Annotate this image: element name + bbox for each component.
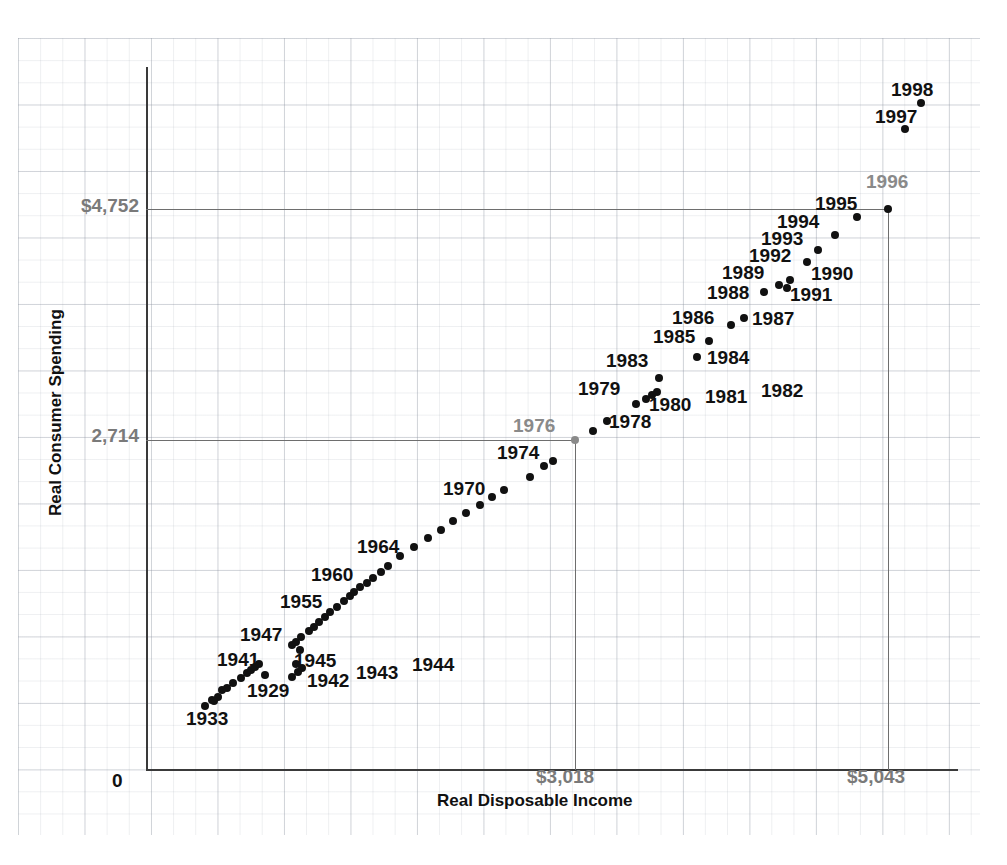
data-point-1983: [655, 374, 663, 382]
data-point-1974: [540, 462, 548, 470]
data-point-label-1995: 1995: [815, 194, 857, 213]
data-point-label-1933: 1933: [186, 709, 228, 728]
data-point-label-1942: 1942: [307, 671, 349, 690]
data-point-1967: [437, 526, 445, 534]
data-point-label-1997: 1997: [875, 107, 917, 126]
x-tick-label-3018: $3,018: [536, 766, 594, 788]
data-point-1985: [705, 337, 713, 345]
data-point-1989: [775, 281, 783, 289]
data-point-label-1979: 1979: [578, 379, 620, 398]
data-point-label-1985: 1985: [653, 327, 695, 346]
data-point-1963: [384, 562, 392, 570]
data-point-1933: [210, 697, 218, 705]
data-point-1992: [803, 258, 811, 266]
data-point-1962: [377, 568, 385, 576]
y-axis-line: [146, 67, 148, 770]
x-tick-label-5043: $5,043: [847, 766, 905, 788]
data-point-1995: [853, 213, 861, 221]
reference-line-y-4752: [146, 209, 889, 210]
data-point-1998: [917, 99, 925, 107]
data-point-1971: [488, 493, 496, 501]
data-point-label-1982: 1982: [761, 381, 803, 400]
data-point-label-1945: 1945: [294, 651, 336, 670]
chart-page: $4,752 2,714 0 $3,018 $5,043 Real Dispos…: [0, 0, 1007, 865]
data-point-label-1990: 1990: [811, 264, 853, 283]
data-point-label-1988: 1988: [707, 283, 749, 302]
reference-line-x-5043: [888, 209, 889, 770]
data-point-label-1978: 1978: [609, 412, 651, 431]
data-point-1968: [449, 517, 457, 525]
data-point-1984: [693, 353, 701, 361]
data-point-label-1983: 1983: [606, 351, 648, 370]
origin-label: 0: [112, 770, 123, 792]
y-axis-title: Real Consumer Spending: [46, 316, 66, 516]
data-point-1973: [526, 473, 534, 481]
data-point-1987: [740, 314, 748, 322]
data-point-label-1929: 1929: [247, 681, 289, 700]
data-point-label-1980: 1980: [649, 395, 691, 414]
data-point-1966: [424, 534, 432, 542]
data-point-label-1986: 1986: [672, 308, 714, 327]
reference-line-x-3018: [575, 440, 576, 770]
data-point-label-1955: 1955: [280, 592, 322, 611]
y-tick-label-mid: 2,714: [91, 425, 139, 447]
scatter-plot: $4,752 2,714 0 $3,018 $5,043 Real Dispos…: [0, 0, 1007, 865]
y-tick-label-top: $4,752: [81, 195, 139, 217]
data-point-1949: [297, 633, 305, 641]
data-point-1970: [476, 501, 484, 509]
data-point-1965: [410, 543, 418, 551]
data-point-1975: [549, 457, 557, 465]
data-point-label-1991: 1991: [790, 285, 832, 304]
reference-line-y-2714: [146, 440, 576, 441]
data-point-1977: [589, 427, 597, 435]
data-point-label-1984: 1984: [707, 348, 749, 367]
data-point-label-1943: 1943: [356, 663, 398, 682]
data-point-label-1941: 1941: [217, 650, 259, 669]
data-point-label-1998: 1998: [891, 80, 933, 99]
x-axis-title: Real Disposable Income: [437, 791, 633, 811]
data-point-1979: [632, 400, 640, 408]
data-point-label-1976: 1976: [513, 416, 555, 435]
data-point-label-1964: 1964: [357, 537, 399, 556]
data-point-1988: [760, 288, 768, 296]
data-point-1961: [369, 574, 377, 582]
data-point-label-1996: 1996: [866, 172, 908, 191]
data-point-1941: [261, 671, 269, 679]
data-point-1994: [831, 231, 839, 239]
data-point-label-1970: 1970: [443, 479, 485, 498]
data-point-1969: [462, 509, 470, 517]
data-point-1976: [571, 436, 579, 444]
data-point-1972: [500, 486, 508, 494]
data-point-label-1994: 1994: [777, 212, 819, 231]
data-point-label-1987: 1987: [752, 309, 794, 328]
data-point-label-1944: 1944: [412, 655, 454, 674]
data-point-1955: [333, 603, 341, 611]
data-point-1990: [786, 276, 794, 284]
data-point-1935: [229, 679, 237, 687]
data-point-label-1947: 1947: [240, 625, 282, 644]
data-point-1996: [884, 205, 892, 213]
data-point-label-1960: 1960: [311, 565, 353, 584]
data-point-label-1981: 1981: [705, 387, 747, 406]
data-point-1993: [814, 246, 822, 254]
data-point-1986: [727, 321, 735, 329]
data-point-label-1974: 1974: [497, 443, 539, 462]
